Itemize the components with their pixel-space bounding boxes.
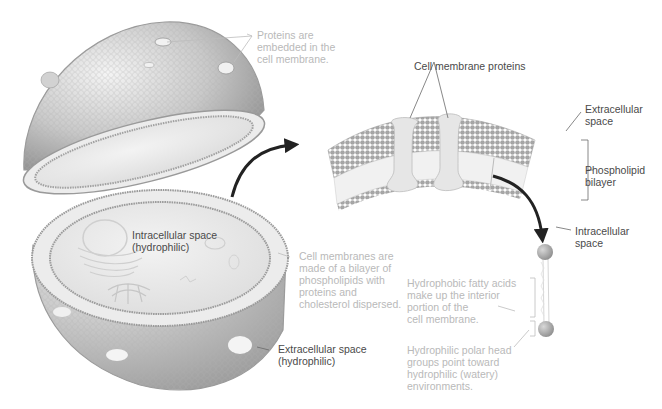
label-extracellular-space-hydrophilic: Extracellular space (hydrophilic) bbox=[278, 343, 367, 367]
label-cell-membrane-proteins: Cell membrane proteins bbox=[414, 60, 525, 72]
cell-top-half bbox=[16, 22, 271, 211]
cell-bottom-half bbox=[32, 190, 288, 390]
label-hydrophobic-fatty-acids: Hydrophobic fatty acids make up the inte… bbox=[407, 277, 516, 325]
label-proteins-embedded: Proteins are embedded in the cell membra… bbox=[257, 29, 335, 65]
single-phospholipid bbox=[537, 244, 554, 337]
label-phospholipid-bilayer: Phospholipid bilayer bbox=[585, 164, 645, 188]
label-cell-membranes-made-of: Cell membranes are made of a bilayer of … bbox=[299, 250, 401, 310]
label-hydrophilic-polar-heads: Hydrophilic polar head groups point towa… bbox=[407, 344, 511, 392]
phospholipid-bilayer-section bbox=[328, 114, 535, 211]
label-intracellular-space-hydrophilic: Intracellular space (hydrophilic) bbox=[132, 229, 217, 253]
polar-head-top bbox=[537, 244, 553, 260]
label-extracellular-space: Extracellular space bbox=[585, 103, 643, 127]
zoom-arrow-1 bbox=[232, 145, 292, 197]
label-intracellular-space: Intracellular space bbox=[575, 225, 629, 249]
polar-head-bottom bbox=[538, 321, 554, 337]
